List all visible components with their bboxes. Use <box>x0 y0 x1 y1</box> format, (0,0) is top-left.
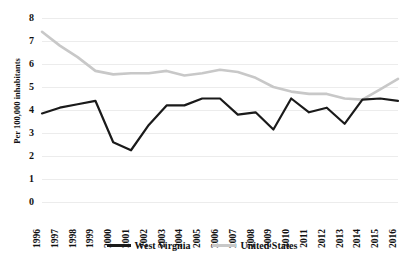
chart-legend: West VirgniaUnited States <box>0 240 404 251</box>
y-axis-tick-label: 6 <box>0 59 34 69</box>
legend-swatch-icon <box>212 244 236 247</box>
y-axis-tick-label: 1 <box>0 174 34 184</box>
series-line-united-states <box>42 32 398 100</box>
series-layer <box>42 18 398 202</box>
legend-swatch-icon <box>107 244 131 247</box>
gridline <box>42 202 398 203</box>
y-axis-tick-label: 2 <box>0 151 34 161</box>
line-chart: Per 100,000 inhabitants 876543210 199619… <box>0 0 404 258</box>
plot-area <box>42 18 398 202</box>
y-axis-tick-label: 0 <box>0 197 34 207</box>
x-axis-tick-labels: 1996199719981999200020012002200320042005… <box>42 204 398 238</box>
legend-label: United States <box>240 240 297 251</box>
legend-item[interactable]: West Virgnia <box>107 240 191 251</box>
y-axis-tick-label: 8 <box>0 13 34 23</box>
legend-label: West Virgnia <box>135 240 191 251</box>
y-axis-tick-label: 4 <box>0 105 34 115</box>
series-line-west-virgnia <box>42 99 398 151</box>
legend-item[interactable]: United States <box>212 240 297 251</box>
y-axis-tick-labels: 876543210 <box>0 18 36 202</box>
y-axis-tick-label: 5 <box>0 82 34 92</box>
y-axis-tick-label: 3 <box>0 128 34 138</box>
y-axis-tick-label: 7 <box>0 36 34 46</box>
